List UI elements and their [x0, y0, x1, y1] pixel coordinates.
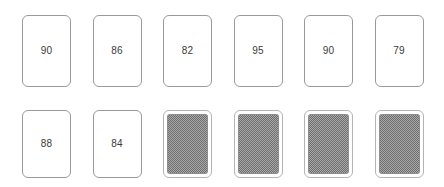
card-value: 84: [111, 139, 123, 149]
card-value: 88: [41, 139, 53, 149]
card-facedown[interactable]: [163, 110, 212, 178]
card-value: 90: [41, 46, 53, 56]
card-back-pattern-icon: [379, 114, 420, 174]
card[interactable]: 82: [163, 15, 212, 87]
card-facedown[interactable]: [375, 110, 424, 178]
card-row-bottom: 88 84: [0, 110, 424, 178]
card-value: 79: [393, 46, 405, 56]
card-back-pattern-icon: [167, 114, 208, 174]
card[interactable]: 90: [304, 15, 353, 87]
card-facedown[interactable]: [234, 110, 283, 178]
card-row-top: 90 86 82 95 90 79: [0, 15, 424, 87]
card-value: 95: [252, 46, 264, 56]
card-value: 86: [111, 46, 123, 56]
card[interactable]: 84: [93, 110, 142, 178]
card-value: 82: [182, 46, 194, 56]
card-value: 90: [323, 46, 335, 56]
card[interactable]: 90: [22, 15, 71, 87]
card[interactable]: 88: [22, 110, 71, 178]
card-facedown[interactable]: [304, 110, 353, 178]
card-back-pattern-icon: [308, 114, 349, 174]
card-board: 90 86 82 95 90 79 88 84: [0, 0, 444, 187]
card[interactable]: 79: [375, 15, 424, 87]
card[interactable]: 95: [234, 15, 283, 87]
card-back-pattern-icon: [238, 114, 279, 174]
card[interactable]: 86: [93, 15, 142, 87]
